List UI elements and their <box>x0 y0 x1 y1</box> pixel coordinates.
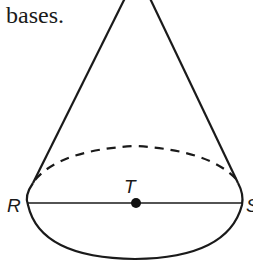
label-S: S <box>246 195 253 216</box>
label-T: T <box>124 176 137 197</box>
center-point-T <box>131 198 141 208</box>
cone-diagram: R T S <box>0 0 253 266</box>
cone-figure-canvas: bases. R T S <box>0 0 253 266</box>
label-R: R <box>7 195 21 216</box>
cone-left-slant <box>33 0 129 183</box>
base-back-arc-dashed <box>35 146 237 180</box>
